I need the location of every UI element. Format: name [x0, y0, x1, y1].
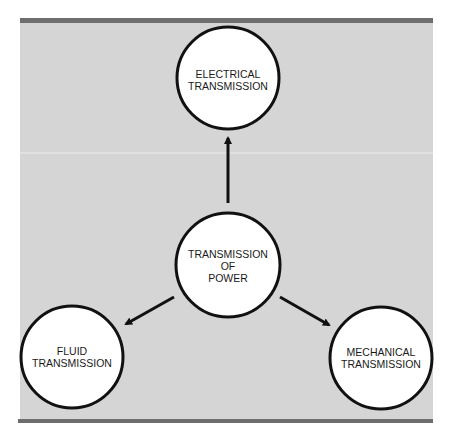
node-fluid-line2: TRANSMISSION: [32, 357, 112, 369]
node-fluid-line1: FLUID: [57, 345, 88, 357]
bottom-bar: [18, 419, 433, 423]
node-electrical-line1: ELECTRICAL: [196, 68, 261, 80]
node-electrical-line2: TRANSMISSION: [188, 80, 268, 92]
node-mechanical: MECHANICAL TRANSMISSION: [330, 307, 432, 409]
transmission-diagram: ELECTRICAL TRANSMISSION TRANSMISSION OF …: [0, 0, 452, 442]
node-center-line1: TRANSMISSION: [188, 248, 268, 260]
node-mechanical-line1: MECHANICAL: [347, 346, 416, 358]
node-electrical: ELECTRICAL TRANSMISSION: [177, 27, 279, 129]
top-bar: [20, 18, 433, 23]
node-mechanical-line2: TRANSMISSION: [341, 358, 421, 370]
node-transmission-of-power: TRANSMISSION OF POWER: [176, 213, 280, 317]
node-center-line3: POWER: [208, 272, 248, 284]
node-fluid: FLUID TRANSMISSION: [21, 306, 123, 408]
node-center-line2: OF: [221, 260, 236, 272]
